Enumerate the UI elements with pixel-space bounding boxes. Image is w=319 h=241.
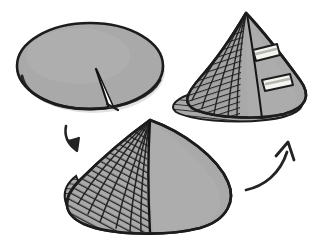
disc-highlight [26, 28, 130, 84]
cone-instruction-illustration: Circle with wedge cut Narrow wedge slit … [0, 0, 319, 241]
diagram-canvas: Cone construction from a cut circle Hand… [0, 0, 319, 241]
